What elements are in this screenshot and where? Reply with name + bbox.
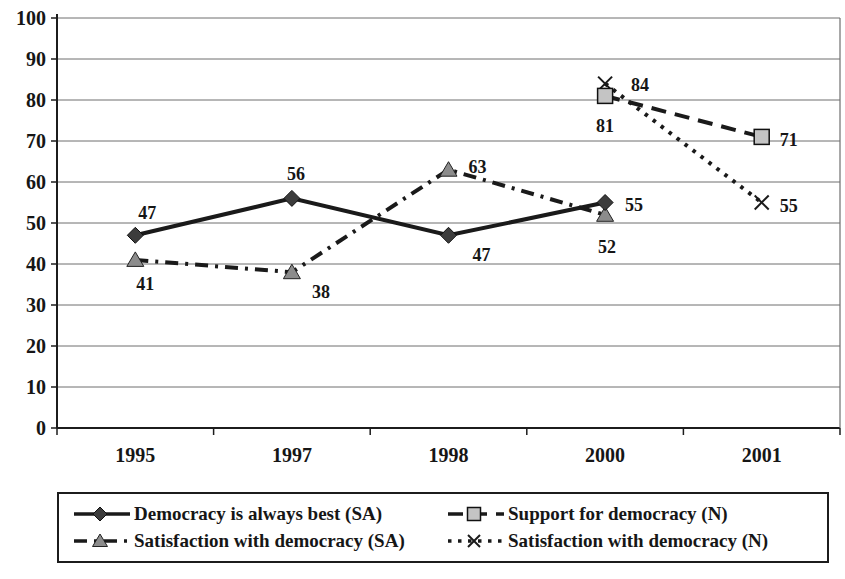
series-line xyxy=(135,198,605,235)
y-tick-label: 100 xyxy=(16,7,46,29)
line-chart-figure: 0102030405060708090100199519971998200020… xyxy=(0,0,845,478)
y-tick-label: 90 xyxy=(26,48,46,70)
data-point-label: 81 xyxy=(596,116,614,136)
legend-label: Democracy is always best (SA) xyxy=(134,504,382,525)
y-tick-label: 10 xyxy=(26,376,46,398)
square-marker-icon xyxy=(754,129,769,144)
data-point-label: 71 xyxy=(780,130,798,150)
x-tick-label: 1997 xyxy=(272,444,312,466)
data-point-label: 47 xyxy=(473,245,491,265)
square-marker-icon xyxy=(598,88,613,103)
data-point-label: 55 xyxy=(780,196,798,216)
x-tick-label: 2001 xyxy=(742,444,782,466)
legend-sample-square-icon xyxy=(447,503,505,525)
y-tick-label: 0 xyxy=(36,417,46,439)
data-point-label: 55 xyxy=(625,195,643,215)
y-tick-label: 30 xyxy=(26,294,46,316)
x-tick-label: 1995 xyxy=(115,444,155,466)
data-point-label: 47 xyxy=(138,203,156,223)
legend-item: Satisfaction with democracy (N) xyxy=(447,530,821,552)
legend-label: Satisfaction with democracy (N) xyxy=(508,531,768,552)
legend-item: Democracy is always best (SA) xyxy=(73,503,445,525)
triangle-marker-icon xyxy=(440,162,457,177)
data-point-label: 84 xyxy=(631,75,649,95)
y-tick-label: 80 xyxy=(26,89,46,111)
data-point-label: 41 xyxy=(136,274,154,294)
legend-item: Support for democracy (N) xyxy=(447,503,821,525)
y-tick-label: 60 xyxy=(26,171,46,193)
y-tick-label: 50 xyxy=(26,212,46,234)
legend-item: Satisfaction with democracy (SA) xyxy=(73,530,445,552)
y-tick-label: 70 xyxy=(26,130,46,152)
diamond-marker-icon xyxy=(284,190,300,206)
data-point-label: 52 xyxy=(598,237,616,257)
legend-sample-x-icon xyxy=(447,530,505,552)
line-chart-canvas: 0102030405060708090100199519971998200020… xyxy=(0,0,845,478)
data-point-label: 56 xyxy=(287,164,305,184)
legend-label: Support for democracy (N) xyxy=(508,504,728,525)
chart-legend: Democracy is always best (SA)Support for… xyxy=(57,492,829,563)
legend-sample-diamond-icon xyxy=(73,503,131,525)
data-point-label: 63 xyxy=(469,157,487,177)
x-tick-label: 2000 xyxy=(585,444,625,466)
data-point-label: 38 xyxy=(312,282,330,302)
series-line xyxy=(135,170,605,273)
diamond-marker-icon xyxy=(93,507,107,521)
legend-sample-triangle-icon xyxy=(73,530,131,552)
x-tick-label: 1998 xyxy=(429,444,469,466)
scanned-chart-page: 0102030405060708090100199519971998200020… xyxy=(0,0,845,579)
diamond-marker-icon xyxy=(127,227,143,243)
diamond-marker-icon xyxy=(597,195,613,211)
y-tick-label: 20 xyxy=(26,335,46,357)
series-line xyxy=(605,96,762,137)
legend-label: Satisfaction with democracy (SA) xyxy=(134,531,405,552)
diamond-marker-icon xyxy=(441,227,457,243)
square-marker-icon xyxy=(468,508,481,521)
y-tick-label: 40 xyxy=(26,253,46,275)
